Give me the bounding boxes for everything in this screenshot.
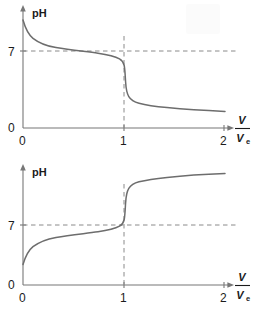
x-axis-title-top: V V e: [235, 114, 250, 146]
y-tick-label-7-bottom: 7: [8, 219, 15, 233]
titration-curve-top: [23, 20, 225, 111]
x-tick-label-0-bottom: 0: [19, 291, 26, 305]
x-axis-bottom: [23, 282, 234, 288]
y-tick-label-7-top: 7: [8, 45, 15, 59]
svg-text:V: V: [236, 132, 245, 144]
chart-panel-bottom: pH 7 0 0 1 2 V V e: [0, 157, 261, 314]
svg-text:V: V: [238, 114, 247, 126]
x-tick-label-1-bottom: 1: [120, 291, 127, 305]
x-tick-label-1-top: 1: [120, 134, 127, 148]
y-axis-title-top: pH: [32, 7, 47, 19]
x-tick-label-2-bottom: 2: [220, 291, 227, 305]
svg-text:e: e: [246, 137, 250, 146]
y-tick-label-0-bottom: 0: [8, 278, 15, 292]
x-tick-label-0-top: 0: [19, 134, 26, 148]
chart-panel-top: pH 7 0 0 1 2 V V e: [0, 0, 261, 157]
svg-text:e: e: [246, 294, 250, 303]
svg-text:V: V: [236, 289, 245, 301]
x-axis-title-bottom: V V e: [235, 271, 250, 303]
svg-text:V: V: [238, 271, 247, 283]
y-tick-label-0-top: 0: [8, 121, 15, 135]
figure-root: pH 7 0 0 1 2 V V e: [0, 0, 261, 314]
x-axis-top: [23, 125, 234, 131]
y-axis-title-bottom: pH: [32, 166, 47, 178]
x-tick-label-2-top: 2: [220, 134, 227, 148]
y-axis-top: [20, 5, 26, 128]
